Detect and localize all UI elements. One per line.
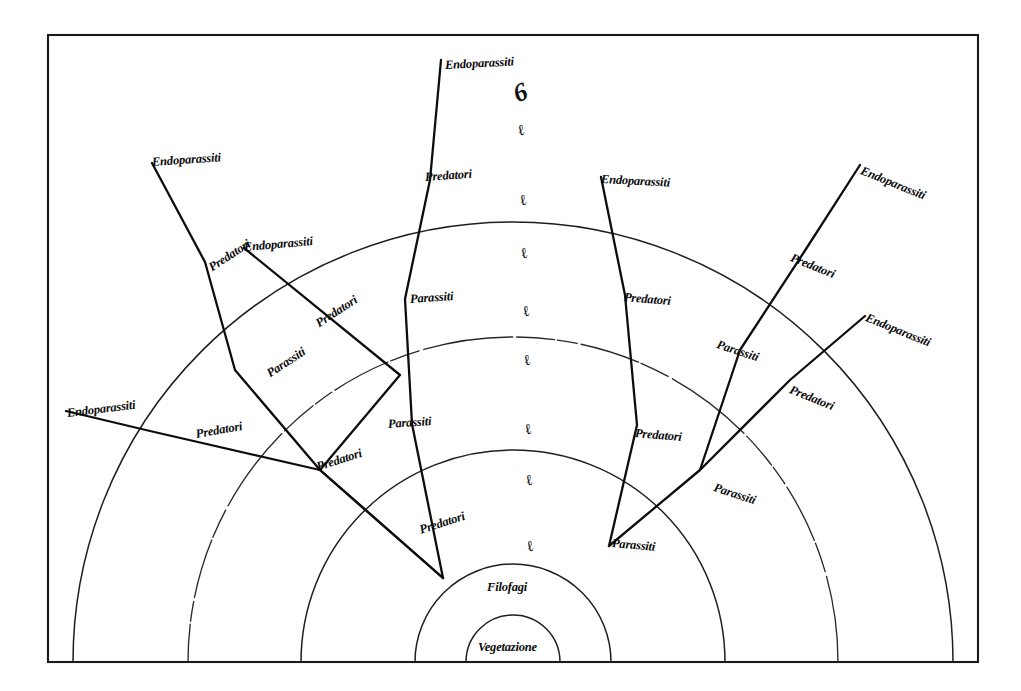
trophic-diagram-figure: VegetazioneFilofagi PredatoriPredatoriPr… [0, 0, 1021, 691]
chain-c [244, 248, 400, 470]
chain-d [405, 60, 443, 578]
core-label-filofagi: Filofagi [487, 580, 527, 595]
chain-a [66, 411, 443, 578]
diagram-frame [48, 35, 978, 662]
ring-arc-endoparassiti [73, 222, 953, 662]
ring-arc-parassiti [301, 450, 725, 662]
ring-label-parassiti-3: Parassiti [409, 289, 453, 307]
ring-arcs [73, 222, 953, 662]
ring-label-parassiti-2: Parassiti [387, 414, 431, 432]
core-label-vegetazione: Vegetazione [478, 640, 537, 655]
chain-b [152, 163, 443, 578]
